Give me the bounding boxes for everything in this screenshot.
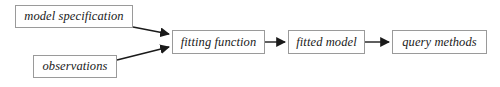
node-fitted-model: fitted model xyxy=(288,30,365,54)
node-label: fitting function xyxy=(181,36,257,49)
flowchart-diagram: model specification observations fitting… xyxy=(0,0,500,87)
node-label: observations xyxy=(42,60,107,73)
node-label: model specification xyxy=(24,10,123,23)
node-query-methods: query methods xyxy=(392,30,487,54)
arrow-observations-to-fitting-function xyxy=(117,47,169,60)
node-fitting-function: fitting function xyxy=(172,30,265,54)
node-label: query methods xyxy=(402,36,477,49)
node-label: fitted model xyxy=(296,36,357,49)
arrow-model-specification-to-fitting-function xyxy=(133,27,169,34)
node-observations: observations xyxy=(33,55,117,78)
node-model-specification: model specification xyxy=(15,5,133,28)
